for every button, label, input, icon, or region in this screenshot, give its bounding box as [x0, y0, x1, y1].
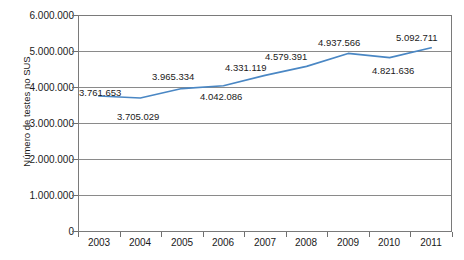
x-tick-mark	[203, 232, 204, 237]
x-tick-mark	[410, 232, 411, 237]
data-label-2011: 5.092.711	[396, 33, 438, 43]
x-tick-label-2009: 2009	[326, 238, 370, 248]
gridline-2000000	[79, 159, 451, 160]
data-label-2005: 3.965.334	[152, 72, 194, 82]
x-tick-label-2004: 2004	[118, 238, 162, 248]
y-tick-label-5000000: 5.000.000	[4, 47, 74, 57]
data-label-2003: 3.761.653	[79, 88, 121, 98]
x-tick-label-2003: 2003	[77, 238, 121, 248]
y-tick-label-2000000: 2.000.000	[4, 155, 74, 165]
y-tick-label-1000000: 1.000.000	[4, 191, 74, 201]
line-chart: Número de testes no SUS 6.000.000 5.000.…	[0, 0, 464, 260]
x-tick-mark	[286, 232, 287, 237]
data-label-2006: 4.042.086	[200, 92, 242, 102]
x-tick-label-2005: 2005	[160, 238, 204, 248]
data-label-2010: 4.821.636	[372, 66, 414, 76]
y-axis-tick-labels: 6.000.000 5.000.000 4.000.000 3.000.000 …	[4, 0, 74, 260]
x-tick-mark	[369, 232, 370, 237]
gridline-3000000	[79, 123, 451, 124]
x-tick-mark	[452, 232, 453, 237]
x-tick-label-2011: 2011	[409, 238, 453, 248]
x-tick-mark	[120, 232, 121, 237]
y-tick-label-0: 0	[4, 227, 74, 237]
x-tick-label-2008: 2008	[284, 238, 328, 248]
x-tick-mark	[244, 232, 245, 237]
data-label-2004: 3.705.029	[117, 112, 159, 122]
y-tick-label-6000000: 6.000.000	[4, 11, 74, 21]
x-tick-mark	[327, 232, 328, 237]
gridline-4000000	[79, 87, 451, 88]
x-tick-mark	[161, 232, 162, 237]
data-label-2009: 4.937.566	[318, 38, 360, 48]
x-tick-label-2010: 2010	[367, 238, 411, 248]
gridline-1000000	[79, 195, 451, 196]
x-tick-label-2006: 2006	[201, 238, 245, 248]
x-tick-label-2007: 2007	[243, 238, 287, 248]
y-tick-label-3000000: 3.000.000	[4, 119, 74, 129]
x-tick-mark	[78, 232, 79, 237]
data-label-2007: 4.331.119	[225, 63, 267, 73]
plot-area	[78, 15, 452, 232]
data-label-2008: 4.579.391	[265, 52, 307, 62]
y-tick-label-4000000: 4.000.000	[4, 83, 74, 93]
